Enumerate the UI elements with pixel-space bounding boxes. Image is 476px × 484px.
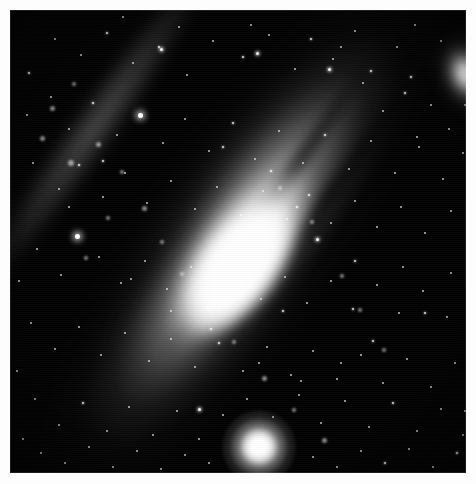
photo-frame xyxy=(0,0,476,484)
star xyxy=(464,410,466,412)
star xyxy=(432,466,434,468)
sky-plate-image xyxy=(10,10,466,473)
star xyxy=(456,452,458,454)
star xyxy=(462,434,464,436)
